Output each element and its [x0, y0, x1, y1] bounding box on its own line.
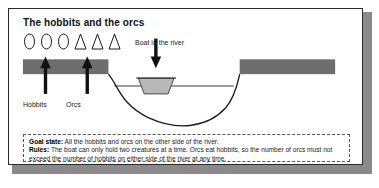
hobbits-label: Hobbits: [23, 101, 47, 108]
hobbits-and-orcs-figure: The hobbits and the orcs: [0, 0, 379, 188]
boat-label: Boat in the river: [135, 39, 184, 46]
goal-state-text: All the hobbits and orcs on the other si…: [65, 138, 219, 145]
rules-text: The boat can only hold two creatures at …: [29, 146, 332, 161]
goal-and-rules-box: Goal state: All the hobbits and orcs on …: [23, 134, 350, 162]
goal-state-line: Goal state: All the hobbits and orcs on …: [29, 138, 344, 146]
figure-panel: The hobbits and the orcs: [8, 8, 363, 165]
river-bed-curve: [108, 74, 239, 126]
boat-hull: [138, 78, 174, 94]
rules-key: Rules:: [29, 146, 49, 153]
right-bank: [240, 59, 335, 74]
rules-line: Rules: The boat can only hold two creatu…: [29, 146, 344, 163]
left-bank: [23, 59, 109, 74]
goal-state-key: Goal state:: [29, 138, 63, 145]
orcs-label: Orcs: [66, 101, 81, 108]
panel-inner: The hobbits and the orcs: [9, 9, 362, 164]
